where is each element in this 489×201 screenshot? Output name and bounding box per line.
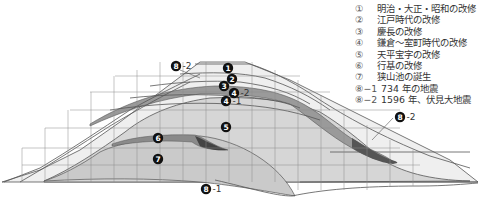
svg-text:6: 6 (155, 134, 160, 143)
legend-item: ⑧−1734 年の地震 (355, 83, 476, 94)
legend-item: ②江戸時代の改修 (355, 14, 476, 25)
legend-item: ⑤天平宝字の改修 (355, 49, 476, 60)
marker-2: 2 (227, 74, 237, 84)
svg-text:3: 3 (221, 82, 226, 91)
svg-text:-1: -1 (213, 184, 222, 194)
svg-text:-2: -2 (183, 61, 192, 71)
marker-8-2: 8-2 (171, 61, 192, 71)
svg-text:-2: -2 (407, 112, 416, 122)
marker-7: 7 (153, 154, 163, 164)
svg-text:-2: -2 (241, 88, 250, 98)
legend-item: ④鎌倉～室町時代の改修 (355, 37, 476, 48)
svg-text:-1: -1 (233, 96, 242, 106)
legend-item: ⑥行基の改修 (355, 60, 476, 71)
marker-1: 1 (223, 63, 233, 73)
legend-item: ⑧−21596 年、伏見大地震 (355, 94, 476, 105)
marker-8-1: 8-1 (201, 184, 222, 194)
legend-item: ③慶長の改修 (355, 26, 476, 37)
marker-3: 3 (219, 81, 229, 91)
svg-text:1: 1 (225, 64, 230, 73)
legend: ①明治・大正・昭和の改修 ②江戸時代の改修 ③慶長の改修 ④鎌倉～室町時代の改修… (355, 3, 476, 106)
legend-item: ①明治・大正・昭和の改修 (355, 3, 476, 14)
marker-8-2: 8-2 (395, 112, 416, 122)
marker-5: 5 (221, 122, 231, 132)
svg-text:8: 8 (173, 62, 178, 71)
svg-text:8: 8 (203, 185, 208, 194)
svg-text:8: 8 (397, 113, 402, 122)
marker-6: 6 (153, 133, 163, 143)
legend-item: ⑦狭山池の誕生 (355, 71, 476, 82)
svg-text:4: 4 (223, 97, 228, 106)
svg-text:7: 7 (155, 155, 160, 164)
svg-text:2: 2 (229, 75, 234, 84)
svg-text:5: 5 (223, 123, 228, 132)
